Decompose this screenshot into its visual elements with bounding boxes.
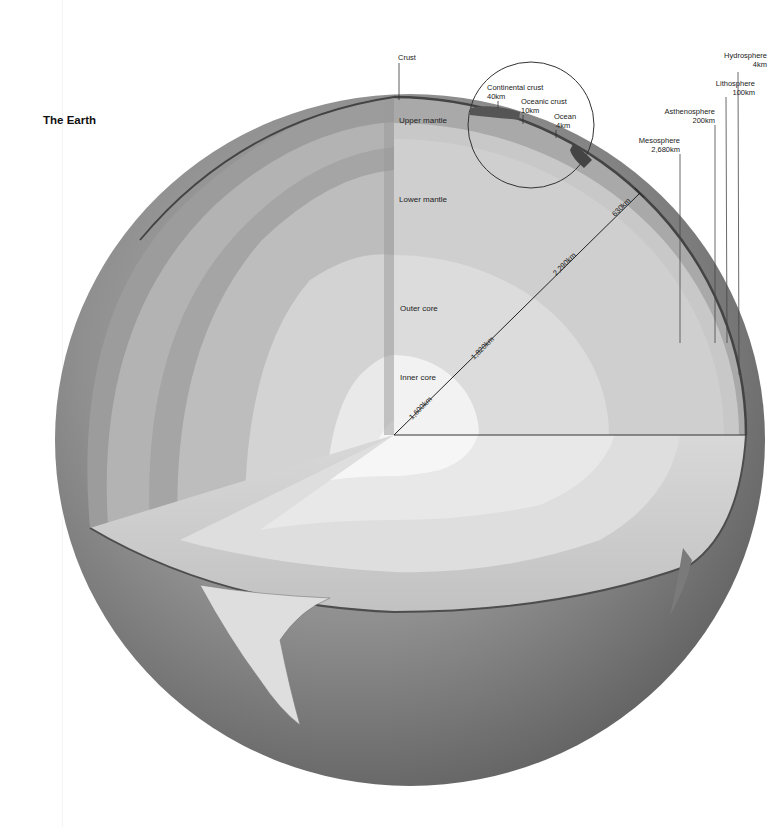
value-lithosphere: 100km <box>732 88 755 97</box>
value-continental-crust: 40km <box>487 92 505 101</box>
label-upper-mantle: Upper mantle <box>399 116 448 125</box>
value-ocean: 4km <box>556 121 570 130</box>
label-lower-mantle: Lower mantle <box>399 195 448 204</box>
value-mesosphere: 2,680km <box>651 145 680 154</box>
value-asthenosphere: 200km <box>692 116 715 125</box>
value-hydrosphere: 4km <box>753 60 767 69</box>
cross-section-edge <box>384 97 394 435</box>
label-mesosphere: Mesosphere <box>639 136 680 145</box>
label-crust: Crust <box>398 53 417 62</box>
label-oceanic-crust: Oceanic crust <box>521 97 568 106</box>
label-hydrosphere: Hydrosphere <box>724 51 767 60</box>
label-continental-crust: Continental crust <box>487 83 544 92</box>
value-oceanic-crust: 10km <box>521 106 539 115</box>
label-inner-core: Inner core <box>400 373 437 382</box>
label-lithosphere: Lithosphere <box>716 79 755 88</box>
label-asthenosphere: Asthenosphere <box>665 107 715 116</box>
label-outer-core: Outer core <box>400 304 438 313</box>
label-ocean: Ocean <box>554 112 576 121</box>
earth-cutaway-diagram: 1,600km 1,820km 2,290km 630km Upper mant… <box>0 0 779 827</box>
